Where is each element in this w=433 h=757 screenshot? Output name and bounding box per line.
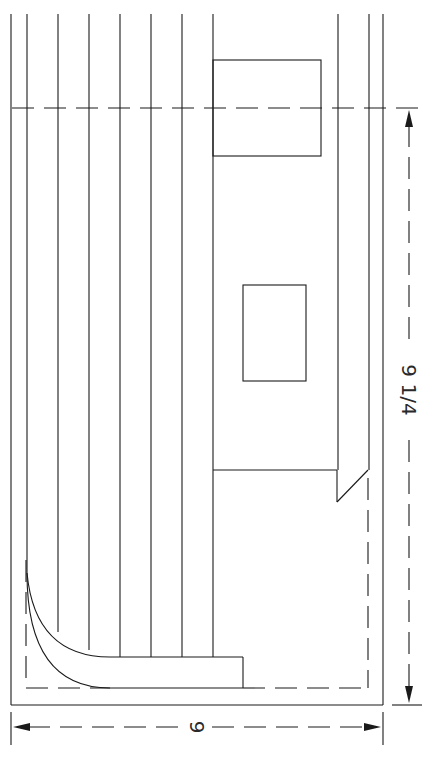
parallel-lines (27, 14, 213, 657)
middle-box (243, 285, 306, 381)
vertical-dimension: 9 1/4 (392, 110, 422, 705)
vertical-dimension-label: 9 1/4 (397, 364, 421, 415)
horizontal-dimension: 9 (11, 712, 383, 745)
arrow-up-icon (405, 110, 413, 127)
arrow-left-icon (13, 723, 30, 731)
arrow-right-icon (364, 723, 381, 731)
horizontal-dimension-label: 9 (185, 721, 209, 734)
chamfer (213, 470, 368, 502)
arrow-down-icon (405, 686, 413, 703)
right-lines (338, 14, 369, 470)
technical-drawing: 9 1/4 9 (0, 0, 433, 757)
curved-bend (27, 573, 243, 688)
outer-frame (11, 14, 383, 705)
